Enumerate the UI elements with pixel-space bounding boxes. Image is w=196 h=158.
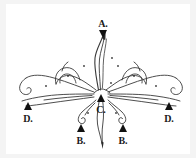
- accent-dot: [133, 75, 135, 77]
- right-sweep-tail-upper: [108, 94, 180, 101]
- annotation-marker-c-triangle-up-icon: [97, 94, 105, 102]
- figure-container: A. C. B. B. D. D.: [0, 0, 196, 158]
- annotation-label-a: A.: [98, 19, 108, 29]
- annotation-marker-b2-triangle-up-icon: [119, 124, 127, 132]
- left-sweep-tail-mid: [44, 96, 92, 101]
- annotation-label-d1: D.: [23, 114, 33, 124]
- accent-dot: [115, 112, 117, 114]
- upper-stem-third: [102, 39, 106, 88]
- annotation-marker-b1-triangle-up-icon: [77, 124, 85, 132]
- upper-stem-outer: [95, 37, 103, 90]
- ornament-group: [20, 30, 183, 150]
- figure-canvas: A. C. B. B. D. D.: [6, 4, 190, 154]
- right-wing-leaf-tip: [134, 62, 140, 71]
- left-wing-leaf-tip: [62, 62, 68, 71]
- accent-dot: [83, 65, 85, 67]
- left-outer-arc-2: [20, 78, 32, 95]
- annotation-marker-d2-triangle-up-icon: [165, 102, 173, 110]
- accent-dot: [67, 75, 69, 77]
- right-sweep-tail-mid: [110, 96, 158, 101]
- annotation-marker-a-triangle-down-icon: [99, 30, 107, 38]
- annotation-marker-d1-triangle-up-icon: [24, 102, 32, 110]
- lower-tail-tip: [101, 142, 103, 149]
- accent-dot: [87, 112, 89, 114]
- left-sweep-tail-upper: [22, 94, 94, 101]
- accent-dot: [45, 85, 47, 87]
- annotation-label-c: C.: [96, 105, 106, 115]
- accent-dot: [111, 57, 113, 59]
- accent-dot: [117, 65, 119, 67]
- annotation-label-b1: B.: [76, 136, 85, 146]
- annotation-label-b2: B.: [118, 136, 127, 146]
- center-junction: [94, 89, 110, 93]
- accent-dot: [110, 82, 112, 84]
- accent-dot: [155, 85, 157, 87]
- annotation-label-d2: D.: [164, 114, 174, 124]
- right-outer-arc-2: [171, 78, 183, 95]
